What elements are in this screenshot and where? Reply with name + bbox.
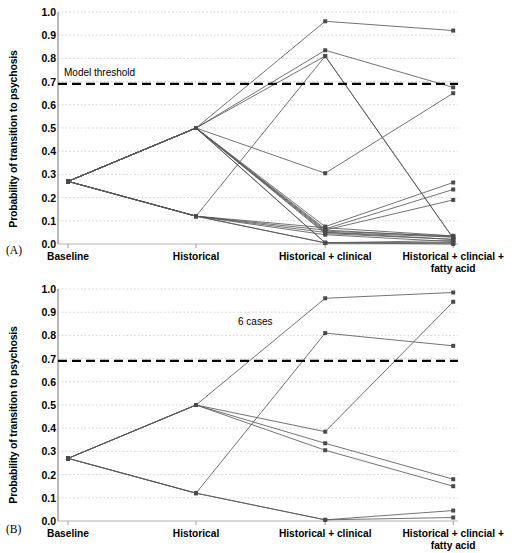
data-point-marker	[451, 187, 455, 191]
data-point-marker	[451, 242, 455, 246]
series-line	[68, 333, 453, 493]
y-axis-ticks-a: 0.00.10.20.30.40.50.60.70.80.91.0	[24, 12, 56, 244]
data-point-marker	[323, 448, 327, 452]
y-tick-label: 0.7	[26, 76, 56, 87]
series-line	[68, 458, 453, 519]
y-axis-title-b: Probability of transition to psychosis	[2, 277, 24, 553]
panel-b: Probability of transition to psychosis 0…	[0, 277, 516, 553]
y-tick-label: 0.3	[26, 446, 56, 457]
data-point-marker	[194, 126, 198, 130]
y-tick-label: 0.4	[26, 146, 56, 157]
y-axis-title-a: Probability of transition to psychosis	[2, 0, 24, 278]
panel-letter-b: (B)	[6, 523, 21, 535]
data-point-marker	[451, 300, 455, 304]
x-tick-label: Historical	[121, 528, 271, 540]
y-tick-label: 0.6	[26, 100, 56, 111]
y-tick-label: 0.1	[26, 493, 56, 504]
y-tick-label: 0.0	[26, 516, 56, 527]
y-tick-label: 0.5	[26, 123, 56, 134]
data-point-marker	[451, 29, 455, 33]
series-line	[68, 405, 453, 479]
data-point-marker	[194, 491, 198, 495]
y-tick-label: 1.0	[26, 7, 56, 18]
data-point-marker	[451, 91, 455, 95]
data-point-marker	[323, 430, 327, 434]
y-tick-label: 0.5	[26, 400, 56, 411]
y-tick-label: 0.8	[26, 53, 56, 64]
data-point-marker	[451, 477, 455, 481]
data-point-marker	[323, 518, 327, 522]
data-point-marker	[323, 171, 327, 175]
y-tick-label: 0.0	[26, 239, 56, 250]
data-point-marker	[323, 241, 327, 245]
data-point-marker	[323, 54, 327, 58]
data-point-marker	[194, 403, 198, 407]
series-line	[68, 458, 453, 519]
series-line	[68, 128, 453, 239]
data-point-marker	[66, 456, 70, 460]
y-tick-label: 0.2	[26, 192, 56, 203]
x-tick-label: Historical + clincial + fatty acid	[378, 528, 516, 551]
data-point-marker	[451, 181, 455, 185]
data-point-marker	[323, 48, 327, 52]
series-line	[68, 128, 453, 230]
y-axis-ticks-b: 0.00.10.20.30.40.50.60.70.80.91.0	[24, 289, 56, 521]
data-point-marker	[451, 484, 455, 488]
series-line	[68, 181, 453, 239]
y-tick-label: 0.3	[26, 169, 56, 180]
panel-letter-a: (A)	[6, 244, 22, 256]
panel-a: Probability of transition to psychosis 0…	[0, 0, 516, 278]
y-tick-label: 0.9	[26, 30, 56, 41]
data-point-marker	[323, 296, 327, 300]
figure-root: Probability of transition to psychosis 0…	[0, 0, 516, 553]
y-tick-label: 0.8	[26, 330, 56, 341]
data-point-marker	[451, 290, 455, 294]
data-point-marker	[451, 85, 455, 89]
data-point-marker	[323, 233, 327, 237]
x-tick-label: Historical + clincial + fatty acid	[378, 251, 516, 274]
y-tick-label: 1.0	[26, 284, 56, 295]
threshold-label-a: Model threshold	[64, 67, 135, 78]
y-tick-label: 0.9	[26, 307, 56, 318]
series-line	[68, 128, 453, 227]
data-point-marker	[66, 179, 70, 183]
data-point-marker	[451, 509, 455, 513]
series-line	[68, 181, 453, 237]
plot-area-a	[58, 12, 458, 244]
y-tick-label: 0.7	[26, 353, 56, 364]
data-point-marker	[194, 214, 198, 218]
series-line	[68, 93, 453, 181]
y-tick-label: 0.6	[26, 377, 56, 388]
series-line	[68, 128, 453, 236]
y-tick-label: 0.4	[26, 423, 56, 434]
data-point-marker	[451, 198, 455, 202]
y-tick-label: 0.1	[26, 216, 56, 227]
data-point-marker	[451, 516, 455, 520]
x-tick-label: Historical	[121, 251, 271, 263]
series-line	[68, 181, 453, 236]
data-point-marker	[323, 331, 327, 335]
data-point-marker	[323, 19, 327, 23]
cases-annotation-b: 6 cases	[238, 316, 272, 327]
data-point-marker	[451, 344, 455, 348]
y-tick-label: 0.2	[26, 469, 56, 480]
data-point-marker	[323, 441, 327, 445]
